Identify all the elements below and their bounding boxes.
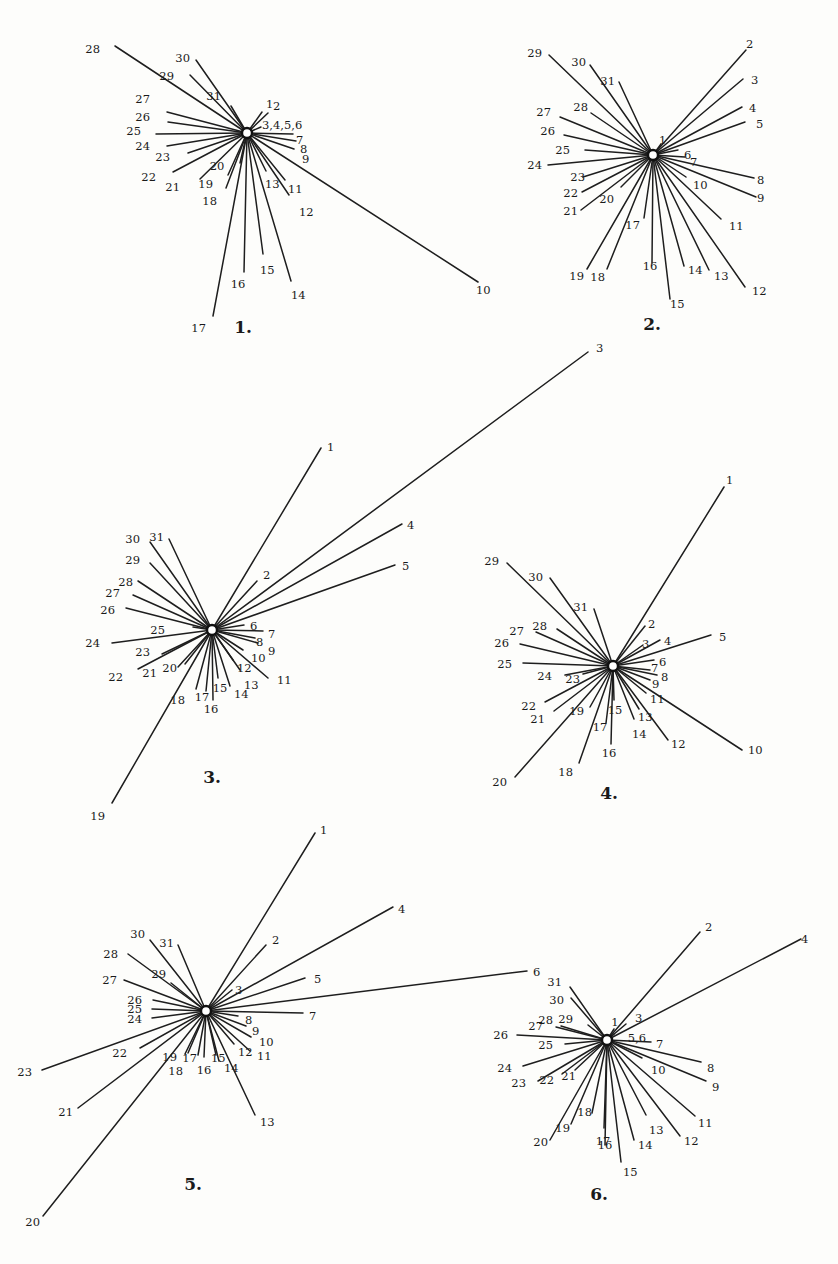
- ray-label: 24: [85, 636, 100, 650]
- ray-label: 20: [25, 1215, 40, 1229]
- ray-label: 4: [398, 902, 405, 916]
- star-diagrams-figure: 123,4,5,67891011121314151617181920212223…: [0, 0, 838, 1264]
- ray-label: 18: [577, 1105, 592, 1119]
- ray-label: 5,6: [628, 1031, 646, 1045]
- ray-label: 29: [125, 553, 140, 567]
- ray-label: 31: [573, 600, 588, 614]
- hub-node: [207, 625, 217, 635]
- ray-label: 27: [102, 973, 117, 987]
- ray-label: 21: [563, 204, 578, 218]
- ray-label: 10: [748, 743, 763, 757]
- ray-label: 15: [608, 703, 623, 717]
- ray-label: 19: [90, 809, 105, 823]
- ray-label: 1: [327, 440, 334, 454]
- ray-label: 3: [596, 341, 603, 355]
- ray-label: 8: [661, 670, 668, 684]
- ray-label: 16: [197, 1063, 212, 1077]
- ray-label: 5: [314, 972, 321, 986]
- ray-label: 22: [112, 1046, 127, 1060]
- ray-label: 31: [159, 936, 174, 950]
- ray-label: 14: [234, 687, 249, 701]
- ray-label: 2: [263, 568, 270, 582]
- ray-label: 17: [625, 218, 640, 232]
- ray-label: 15: [211, 1051, 226, 1065]
- ray-label: 4: [664, 634, 671, 648]
- ray-label: 25: [497, 657, 512, 671]
- ray-label: 17: [593, 720, 608, 734]
- ray-label: 16: [231, 277, 246, 291]
- ray-label: 20: [492, 775, 507, 789]
- ray-label: 31: [149, 530, 164, 544]
- ray-line: [247, 133, 478, 282]
- ray-label: 25: [150, 623, 165, 637]
- ray-label: 11: [288, 182, 303, 196]
- figure-caption: 5.: [184, 1174, 202, 1194]
- ray-label: 28: [538, 1013, 553, 1027]
- ray-label: 8: [757, 173, 764, 187]
- ray-line: [549, 55, 653, 155]
- figure-caption: 6.: [590, 1184, 608, 1204]
- ray-label: 28: [573, 100, 588, 114]
- ray-line: [653, 107, 742, 155]
- ray-label: 14: [688, 263, 703, 277]
- ray-label: 15: [213, 681, 228, 695]
- ray-label: 23: [570, 170, 585, 184]
- ray-label: 30: [571, 55, 586, 69]
- ray-label: 30: [549, 993, 564, 1007]
- ray-line: [607, 932, 700, 1040]
- ray-label: 17: [191, 321, 206, 335]
- ray-label: 20: [533, 1135, 548, 1149]
- ray-label: 17: [182, 1051, 197, 1065]
- ray-line: [247, 133, 291, 281]
- ray-line: [653, 79, 743, 155]
- ray-label: 1: [320, 823, 327, 837]
- ray-label: 22: [108, 670, 123, 684]
- ray-label: 25: [555, 143, 570, 157]
- ray-label: 9: [757, 191, 764, 205]
- ray-line: [607, 1040, 646, 1115]
- ray-label: 20: [210, 159, 225, 173]
- ray-label: 10: [259, 1035, 274, 1049]
- ray-line: [156, 133, 247, 134]
- ray-label: 12: [684, 1134, 699, 1148]
- ray-line: [653, 155, 721, 219]
- ray-label: 13: [260, 1115, 275, 1129]
- ray-line: [212, 565, 395, 630]
- ray-line: [507, 563, 613, 666]
- ray-label: 18: [590, 270, 605, 284]
- ray-label: 14: [224, 1061, 239, 1075]
- ray-line: [168, 122, 247, 133]
- ray-label: 1: [726, 473, 733, 487]
- star-diagram-4: 1234567891011121314151617181920212223242…: [484, 473, 762, 803]
- ray-label: 4: [801, 932, 808, 946]
- ray-label: 26: [127, 993, 142, 1007]
- ray-label: 16: [204, 702, 219, 716]
- ray-label: 24: [135, 139, 150, 153]
- ray-label: 21: [530, 712, 545, 726]
- ray-label: 10: [476, 283, 491, 297]
- ray-label: 11: [277, 673, 292, 687]
- ray-label: 2: [746, 37, 753, 51]
- figure-caption: 1.: [234, 317, 252, 337]
- ray-label: 11: [698, 1116, 713, 1130]
- star-diagram-2: 1234567891011121314151617181920212223242…: [527, 37, 766, 334]
- ray-label: 2: [272, 933, 279, 947]
- ray-label: 10: [693, 178, 708, 192]
- ray-line: [150, 563, 212, 630]
- ray-label: 10: [251, 651, 266, 665]
- ray-line: [247, 133, 263, 254]
- ray-line: [613, 626, 645, 666]
- hub-node: [602, 1035, 612, 1045]
- ray-label: 24: [537, 669, 552, 683]
- ray-line: [140, 1011, 206, 1048]
- ray-line: [190, 75, 247, 133]
- ray-label: 18: [558, 765, 573, 779]
- ray-label: 7: [690, 155, 697, 169]
- ray-label: 9: [302, 152, 309, 166]
- ray-label: 18: [168, 1064, 183, 1078]
- ray-label: 3: [751, 73, 758, 87]
- ray-label: 23: [135, 645, 150, 659]
- ray-label: 14: [638, 1138, 653, 1152]
- ray-line: [571, 998, 607, 1040]
- ray-label: 31: [206, 89, 221, 103]
